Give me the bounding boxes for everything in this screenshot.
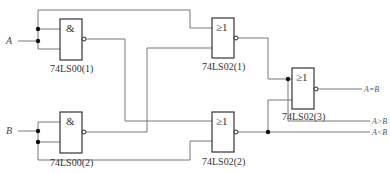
wire-a-gt-b [238,38,292,79]
nor-gate-2: ≥1 74LS02(2) [202,112,245,168]
input-b-label: B [6,125,12,136]
junction-dot [36,140,40,144]
and-symbol: & [66,115,75,127]
nand-gate-2: & 74LS00(2) [50,112,93,169]
gate-label-nor1: 74LS02(1) [202,61,245,73]
output-label-eq: A=B [363,85,379,94]
input-b-network [18,122,212,160]
junction-dot [36,39,40,43]
nor-gate-3: ≥1 74LS02(3) [282,68,325,123]
wire-a-not [86,39,212,121]
junction-dot [266,130,270,134]
logic-circuit-diagram: A B & 74LS00(1) & 74LS00(2) ≥1 74LS02(1) [0,0,390,173]
or-symbol: ≥1 [216,115,228,127]
gate-label-nor2: 74LS02(2) [202,156,245,168]
wire-b-not [86,48,212,132]
or-symbol: ≥1 [216,21,228,33]
output-label-gt: A>B [371,117,387,126]
gate-label-nand2: 74LS00(2) [50,157,93,169]
input-a-network [18,10,212,49]
or-symbol: ≥1 [296,71,308,83]
nor-gate-1: ≥1 74LS02(1) [202,18,245,73]
and-symbol: & [66,22,75,34]
gate-label-nand1: 74LS00(1) [50,63,93,75]
nand-gate-1: & 74LS00(1) [50,19,93,75]
junction-dot [286,77,290,81]
gate-label-nor3: 74LS02(3) [282,111,325,123]
junction-dot [36,27,40,31]
junction-dot [36,129,40,133]
output-label-lt: A<B [371,128,387,137]
input-a-label: A [5,35,13,46]
